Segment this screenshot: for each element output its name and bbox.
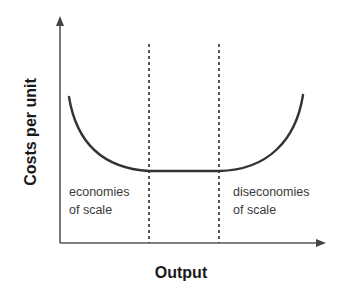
- x-axis-title: Output: [155, 264, 208, 281]
- x-axis-arrow-icon: [316, 239, 326, 247]
- diseconomies-of-scale-label-line2: of scale: [233, 203, 276, 217]
- y-axis: [56, 16, 64, 243]
- y-axis-title: Costs per unit: [22, 78, 39, 186]
- economies-of-scale-diagram: economies of scale diseconomies of scale…: [0, 0, 344, 296]
- economies-of-scale-label: economies: [69, 185, 129, 199]
- diseconomies-of-scale-label: diseconomies: [233, 185, 309, 199]
- average-cost-curve: [69, 95, 303, 171]
- y-axis-arrow-icon: [56, 16, 64, 26]
- x-axis: [60, 239, 326, 247]
- economies-of-scale-label-line2: of scale: [69, 203, 112, 217]
